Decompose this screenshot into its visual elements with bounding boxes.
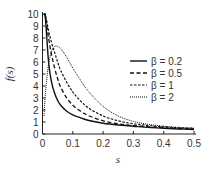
x-tick-label: 0	[40, 138, 46, 149]
chart: 012345678910 00.10.20.30.40.5 f(s) s β =…	[0, 0, 208, 173]
y-tick-label: 0	[33, 129, 39, 140]
x-tick-label: 0.2	[96, 138, 110, 149]
y-tick-label: 4	[33, 81, 39, 92]
y-tick-label: 6	[33, 57, 39, 68]
y-tick-label: 10	[27, 9, 39, 20]
y-tick-label: 5	[33, 69, 39, 80]
legend-label: β = 0.5	[151, 68, 182, 79]
x-tick-label: 0.5	[187, 138, 201, 149]
x-tick-label: 0.4	[157, 138, 171, 149]
y-tick-label: 9	[33, 21, 39, 32]
legend-label: β = 0.2	[151, 56, 182, 67]
legend-label: β = 2	[151, 92, 174, 103]
x-tick-label: 0.3	[126, 138, 140, 149]
legend-label: β = 1	[151, 80, 174, 91]
y-tick-label: 8	[33, 33, 39, 44]
x-tick-label: 0.1	[66, 138, 80, 149]
x-axis-title: s	[116, 153, 120, 165]
y-tick-label: 3	[33, 93, 39, 104]
y-tick-label: 1	[33, 117, 39, 128]
y-tick-label: 2	[33, 105, 39, 116]
y-tick-label: 7	[33, 45, 39, 56]
y-axis-title: f(s)	[3, 66, 16, 81]
legend: β = 0.2β = 0.5β = 1β = 2	[130, 56, 182, 103]
